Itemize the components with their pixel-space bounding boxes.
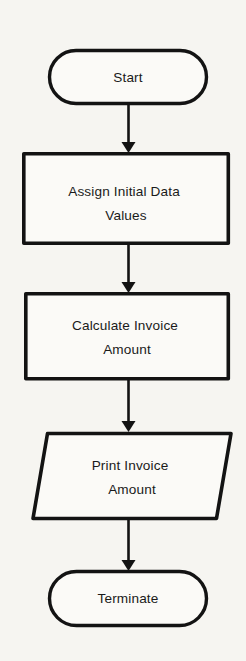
flowchart-diagram: Start Assign Initial Data Values Calcula… [0,0,246,661]
connector-assign-to-calculate-arrowhead [122,282,136,293]
node-calculate-invoice-amount[interactable]: Calculate Invoice Amount [26,294,229,379]
calculate-process-shape [26,294,229,379]
connector-calculate-to-print-arrowhead [122,421,136,432]
connector-assign-to-calculate [122,245,136,293]
connector-start-to-assign-arrowhead [122,142,136,153]
node-assign-initial-data-values[interactable]: Assign Initial Data Values [24,154,229,244]
connector-print-to-terminate-arrowhead [122,560,136,571]
terminate-label: Terminate [97,591,158,606]
print-io-shape [33,434,231,519]
node-print-invoice-amount[interactable]: Print Invoice Amount [33,434,231,519]
flowchart-canvas: Start Assign Initial Data Values Calcula… [0,0,246,661]
start-label: Start [113,69,143,84]
connector-calculate-to-print [122,380,136,432]
connector-start-to-assign [122,104,136,153]
node-start[interactable]: Start [50,51,207,104]
connector-print-to-terminate [122,519,136,571]
node-terminate[interactable]: Terminate [50,572,207,626]
